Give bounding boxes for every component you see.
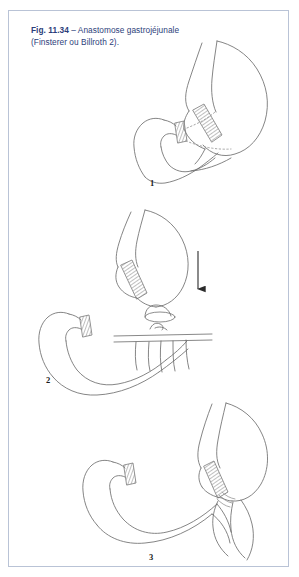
caption-title-line1: Anastomose — [78, 25, 125, 35]
figure-frame: Fig. 11.34 – Anastomose gastrojéjunale (… — [8, 10, 289, 567]
figure-reference: Fig. 11.34 — [31, 25, 69, 35]
panel-number-2: 2 — [46, 375, 50, 385]
caption-title-line3: ou Billroth 2). — [69, 37, 119, 47]
figure-illustration — [9, 11, 290, 568]
panel-number-1: 1 — [150, 178, 154, 188]
caption-dash: – — [71, 25, 76, 35]
panel-3-drawing — [83, 403, 268, 560]
panel-2-drawing — [39, 210, 212, 395]
panel-1-drawing — [134, 41, 268, 183]
figure-caption: Fig. 11.34 – Anastomose gastrojéjunale (… — [31, 25, 181, 48]
panel-number-3: 3 — [149, 552, 153, 562]
